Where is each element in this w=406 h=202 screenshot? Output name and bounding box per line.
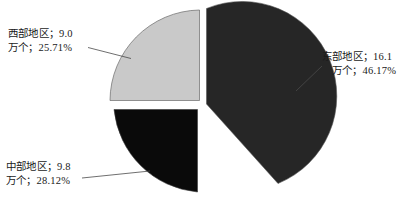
pie-label-west-line2: 万个；25.71%	[8, 41, 73, 55]
leader-line-middle	[82, 171, 150, 178]
pie-slice-east[interactable]	[207, 1, 337, 183]
pie-label-west-line1: 西部地区；9.0	[8, 28, 73, 39]
pie-label-east-line2: 万个；46.17%	[322, 64, 396, 78]
pie-chart-figure: 西部地区；9.0 万个；25.71% 东部地区；16.1 万个；46.17% 中…	[0, 0, 406, 202]
pie-label-east-line1: 东部地区；16.1	[322, 51, 392, 62]
pie-label-west: 西部地区；9.0 万个；25.71%	[8, 27, 73, 54]
pie-label-middle-line1: 中部地区；9.8	[6, 161, 71, 172]
pie-slice-middle[interactable]	[114, 110, 198, 193]
pie-slice-west[interactable]	[110, 10, 200, 101]
pie-label-middle-line2: 万个；28.12%	[6, 174, 71, 188]
pie-label-middle: 中部地区；9.8 万个；28.12%	[6, 160, 71, 187]
pie-label-east: 东部地区；16.1 万个；46.17%	[322, 50, 396, 77]
